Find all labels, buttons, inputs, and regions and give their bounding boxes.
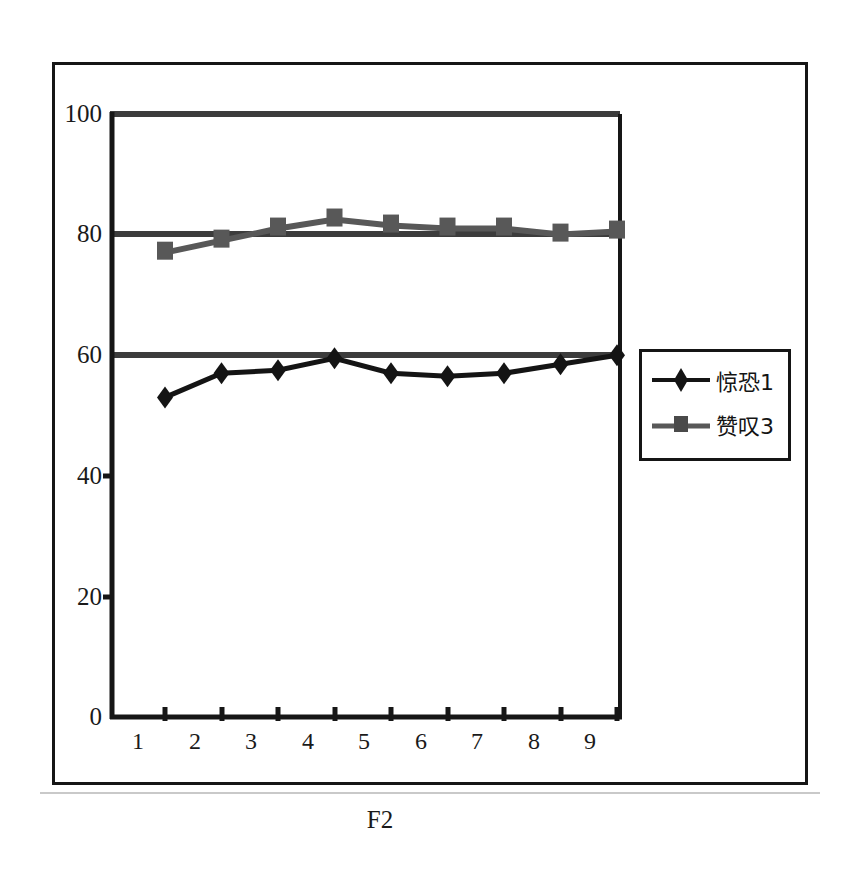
x-tick-label-7: 7 [457, 729, 497, 753]
y-tick-label-40: 40 [42, 463, 102, 488]
y-tick-label-80: 80 [42, 221, 102, 246]
legend-marker-square-icon [650, 410, 712, 438]
x-tick-label-8: 8 [514, 729, 554, 753]
y-tick-label-100: 100 [42, 101, 102, 126]
series-2-marker-4 [327, 209, 343, 227]
series-2-marker-8 [553, 224, 569, 242]
y-tick-label-0: 0 [42, 704, 102, 729]
series-2-marker-7 [496, 218, 512, 236]
series-2-marker-5 [383, 215, 399, 233]
series-2-marker-1 [157, 242, 173, 260]
x-tick-label-4: 4 [288, 729, 328, 753]
figure-container: 100 80 60 40 20 0 1 2 3 4 5 6 7 8 9 F2 惊… [0, 0, 861, 877]
legend-label-0: 惊恐1 [712, 364, 774, 396]
legend-entry-0[interactable]: 惊恐1 [650, 360, 786, 400]
x-tick-label-5: 5 [344, 729, 384, 753]
y-tick-label-20: 20 [42, 584, 102, 609]
series-2-marker-2 [214, 230, 230, 248]
x-tick-label-2: 2 [175, 729, 215, 753]
series-2-marker-9 [609, 221, 625, 239]
x-tick-label-9: 9 [570, 729, 610, 753]
x-tick-label-1: 1 [118, 729, 158, 753]
legend-label-1: 赞叹3 [712, 408, 774, 440]
series-2-marker-6 [440, 218, 456, 236]
x-tick-label-6: 6 [401, 729, 441, 753]
x-axis-title: F2 [300, 806, 460, 834]
chart-legend: 惊恐1 赞叹3 [639, 349, 791, 461]
x-tick-label-3: 3 [231, 729, 271, 753]
legend-entry-1[interactable]: 赞叹3 [650, 404, 786, 444]
legend-marker-diamond-icon [650, 366, 712, 394]
series-2-marker-3 [270, 218, 286, 236]
plot-area-background [110, 114, 620, 717]
y-tick-label-60: 60 [42, 342, 102, 367]
